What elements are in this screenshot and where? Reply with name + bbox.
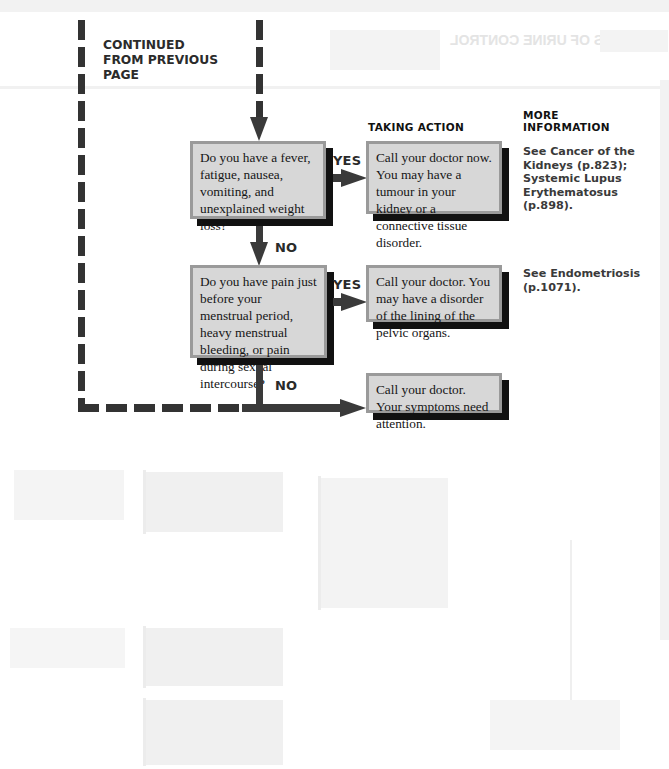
action-box-3: Call your doctor. Your symptoms need att…: [366, 373, 502, 413]
bleed-through-block: [143, 700, 283, 765]
bleed-through-line: [143, 698, 146, 766]
bleed-through-line: [143, 470, 146, 534]
no-label-1: NO: [275, 240, 297, 255]
heading-more-information: MORE INFORMATION: [523, 109, 623, 133]
continued-label: CONTINUED FROM PREVIOUS PAGE: [103, 38, 228, 83]
more-info-2: See Endometriosis (p.1071).: [523, 267, 658, 294]
bleed-through-block: [10, 628, 125, 668]
bleed-through-rule: [0, 86, 669, 89]
bleed-through-band: [0, 0, 669, 12]
arrow-down-icon: [250, 117, 268, 141]
bleed-through-block: [143, 628, 283, 686]
bleed-through-block: [600, 30, 668, 52]
bleed-through-line: [570, 540, 572, 700]
arrow-right-icon: [340, 399, 366, 417]
continued-dashed-line-left: [78, 20, 85, 412]
arrow-right-icon: [341, 293, 367, 311]
bleed-through-block: [143, 472, 283, 532]
bleed-through-block: [330, 30, 440, 70]
continued-dashed-line-main: [256, 20, 263, 120]
yes-label-1: YES: [333, 153, 361, 168]
arrow-down-icon: [250, 242, 268, 266]
bleed-through-line: [143, 626, 146, 688]
more-info-1: See Cancer of the Kidneys (p.823); Syste…: [523, 145, 658, 213]
heading-taking-action: TAKING ACTION: [368, 121, 464, 133]
bleed-through-block: [14, 470, 124, 520]
question-box-2: Do you have pain just before your menstr…: [190, 265, 327, 358]
yes-label-2: YES: [333, 277, 361, 292]
arrow-right-icon: [341, 169, 367, 187]
bleed-through-block: [318, 478, 448, 608]
continued-dashed-line-bottom: [78, 404, 242, 412]
action-box-1: Call your doctor now. You may have a tum…: [366, 141, 502, 214]
bleed-through-block: [490, 700, 620, 750]
question-box-1: Do you have a fever, fatigue, nausea, vo…: [190, 141, 326, 219]
no-label-2: NO: [275, 378, 297, 393]
bleed-through-line: [660, 80, 669, 640]
bottom-arrow-shaft: [242, 404, 342, 412]
action-box-2: Call your doctor. You may have a disorde…: [366, 265, 502, 322]
bleed-through-line: [318, 476, 321, 610]
